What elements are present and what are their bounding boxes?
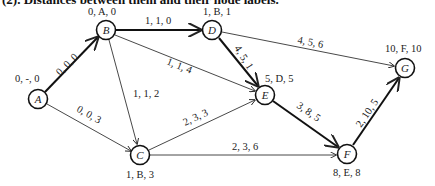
node-id-D: D bbox=[207, 24, 216, 36]
node-id-B: B bbox=[103, 24, 110, 36]
node-E: E 5, D, 5 bbox=[256, 73, 294, 105]
node-id-C: C bbox=[136, 149, 144, 161]
node-label-G: 10, F, 10 bbox=[385, 43, 422, 54]
node-label-F: 8, E, 8 bbox=[333, 167, 360, 178]
node-id-A: A bbox=[34, 93, 42, 105]
edge-label-B-C: 1, 1, 2 bbox=[133, 88, 159, 99]
node-A: A 0, -, 0 bbox=[15, 73, 48, 109]
edge-label-B-D: 1, 1, 0 bbox=[145, 15, 171, 26]
node-id-F: F bbox=[343, 148, 351, 160]
node-label-D: 1, B, 1 bbox=[203, 6, 231, 17]
node-label-A: 0, -, 0 bbox=[15, 73, 40, 84]
node-G: G 10, F, 10 bbox=[385, 43, 422, 78]
node-F: F 8, E, 8 bbox=[333, 145, 360, 179]
network-diagram: 0, 0, 0 0, 0, 3 1, 1, 0 1, 1, 2 1, 1, 4 … bbox=[0, 0, 435, 186]
node-id-G: G bbox=[401, 62, 409, 74]
edge-F-G bbox=[353, 78, 399, 145]
edge-label-B-E: 1, 1, 4 bbox=[165, 56, 194, 76]
node-D: D 1, B, 1 bbox=[203, 6, 232, 40]
node-label-C: 1, B, 3 bbox=[126, 169, 154, 180]
edge-label-C-F: 2, 3, 6 bbox=[232, 141, 258, 152]
edges bbox=[45, 30, 399, 155]
node-label-B: 0, A, 0 bbox=[88, 6, 116, 17]
node-label-E: 5, D, 5 bbox=[265, 73, 294, 84]
edge-label-C-E: 2, 3, 3 bbox=[181, 107, 209, 128]
node-B: B 0, A, 0 bbox=[88, 6, 116, 40]
node-id-E: E bbox=[261, 89, 269, 101]
edge-label-A-B: 0, 0, 0 bbox=[54, 51, 80, 77]
